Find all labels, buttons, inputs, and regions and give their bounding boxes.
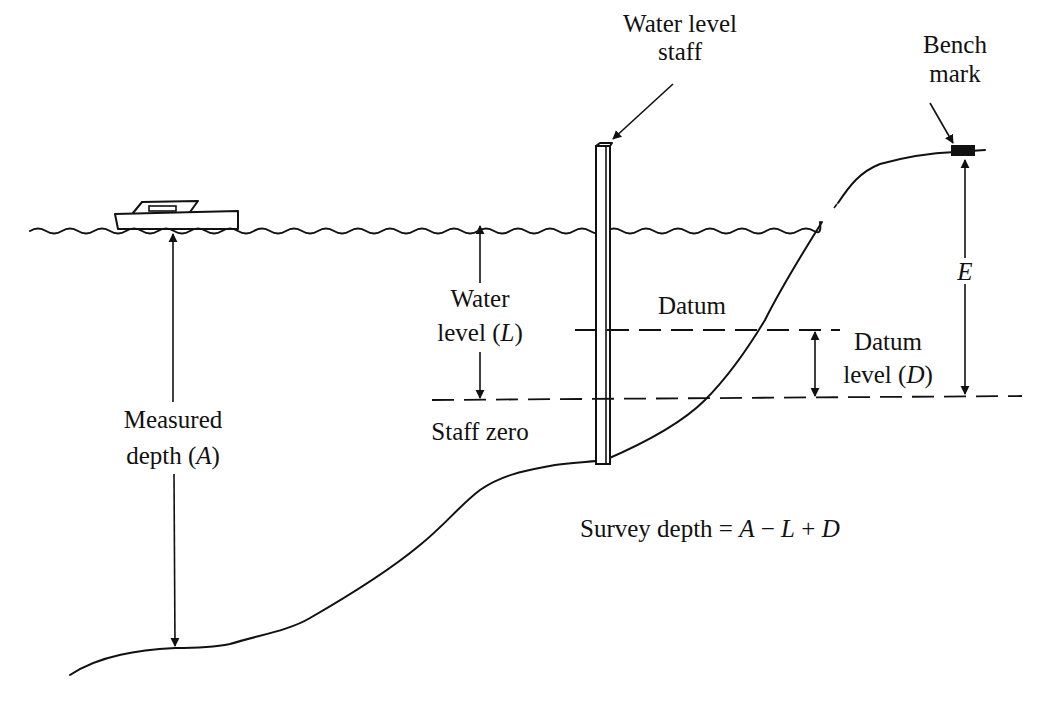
survey-depth-diagram: Water level staff Bench mark Water level… [0, 0, 1049, 705]
water-level-staff [596, 143, 612, 464]
staff-pointer-arrow [613, 84, 673, 139]
land-profile [838, 150, 985, 203]
survey-depth-formula: Survey depth = A − L + D [580, 515, 840, 542]
boat-icon [115, 201, 238, 229]
bench-mark-label-2: mark [929, 60, 981, 87]
measured-depth-label-2: depth (A) [126, 442, 220, 470]
datum-level-label-2: level (D) [843, 361, 933, 389]
staff-label: Water level [623, 10, 737, 37]
datum-level-label: Datum [854, 328, 923, 355]
water-level-label: Water [450, 285, 510, 312]
bench-pointer-arrow [930, 103, 953, 143]
bench-mark-icon [951, 145, 975, 156]
staff-zero-line [432, 396, 1022, 400]
datum-label: Datum [658, 292, 727, 319]
water-level-label-2: level (L) [437, 319, 522, 347]
water-surface [30, 222, 820, 234]
measured-depth-label: Measured [124, 406, 223, 433]
staff-label-2: staff [658, 38, 703, 65]
bench-mark-label: Bench [923, 31, 987, 58]
staff-zero-label: Staff zero [431, 418, 528, 445]
elevation-e-label: E [956, 258, 972, 285]
